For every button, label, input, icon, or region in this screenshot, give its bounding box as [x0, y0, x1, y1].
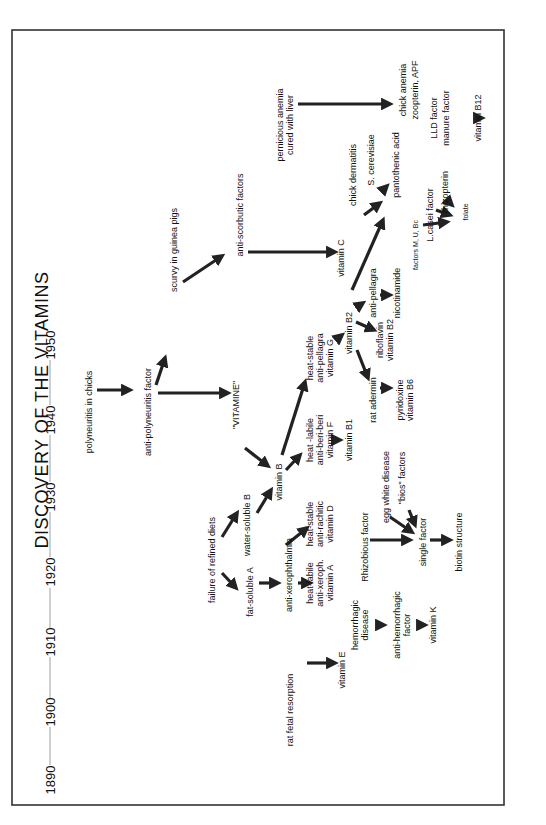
arrow-icon [156, 358, 165, 385]
node-factors-m-u-bc: factors M, U, Bc [412, 220, 419, 270]
node-vitamin-c: vitamin C [336, 239, 346, 277]
arrow-icon [357, 350, 368, 378]
node-vitamin-k: vitamin K [428, 606, 438, 643]
node-vitamin-b: vitamin B [274, 463, 284, 500]
arrow-icon [245, 448, 268, 466]
arrow-icon [222, 513, 237, 537]
labels: polyneuritis in chicks anti-polyneuritis… [84, 60, 483, 746]
arrow-icon [409, 510, 415, 525]
node-vitamin-f: heat -labileanti-beri-berivitamin F [305, 415, 335, 466]
node-polyneuritis-in-chicks: polyneuritis in chicks [84, 370, 94, 453]
arrow-icon [222, 573, 236, 588]
arrow-icon [183, 256, 222, 282]
arrow-icon [257, 490, 271, 513]
node-bios-factors: "bios" factors [397, 451, 407, 504]
arrow-icon [390, 517, 412, 532]
node-folate: folate [462, 203, 469, 220]
node-fat-soluble-a: fat-soluble A [245, 567, 255, 617]
node-egg-white-disease: egg white disease [381, 451, 391, 523]
node-vitamin-b2: vitamin B2 [344, 312, 354, 354]
arrow-icon [286, 455, 300, 470]
node-riboflavin-vitamin-b2: riboflavinvitamin B2 [375, 319, 395, 361]
node-scurvy-in-guinea-pigs: scurvy in guinea pigs [169, 207, 179, 292]
arrow-icon [282, 382, 305, 455]
arrow-icon [357, 303, 363, 307]
node-anti-polyneuritis-factor: anti-polyneuritis factor [143, 368, 153, 456]
node-failure-of-refined-diets: failure of refined diets [207, 516, 217, 603]
node-vitamin-g: heat-stableanti-pellagravitamin G [305, 333, 335, 383]
year-1910: 1910 [43, 628, 58, 657]
node-anti-hemorrhagic-factor: anti-hemorrhagicfactor [392, 591, 412, 659]
node-vitamin-e: vitamin E [337, 651, 347, 688]
node-pyridoxine-vitamin-b6: pyridoxinevitamin B6 [395, 379, 415, 421]
node-biotin-structure: biotin structure [454, 512, 464, 571]
node-pantothenic-acid: pantothenic acid [391, 132, 401, 198]
year-1950: 1950 [43, 331, 58, 360]
node-vitamin-b1: vitamin B1 [344, 419, 354, 461]
year-1920: 1920 [43, 558, 58, 587]
arrow-icon [356, 322, 374, 330]
node-rhizopterin: rhizopterin [440, 171, 450, 213]
node-chick-anemia: chick anemiazoopterin, APF [398, 60, 420, 120]
vitamin-discovery-diagram: DISCOVERY OF THE VITAMINS 1890 1900 1910… [0, 0, 546, 825]
node-s-cerevisiae: S. cerevisiae [366, 134, 376, 186]
node-vitamin-a: heat-labileanti-xeroph.vitamin A [305, 559, 335, 607]
node-chick-dermatitis: chick dermatitis [348, 143, 358, 206]
node-vitamin-d: heat-stableanti-rachiticvitamin D [305, 500, 335, 547]
year-1940: 1940 [43, 406, 58, 435]
arrow-icon [364, 203, 380, 215]
node-rat-fetal-resorption: rat fetal resorption [285, 674, 295, 747]
node-lcasei-factor: L.casei factor [425, 188, 435, 242]
node-water-soluble-b: water-soluble B [242, 494, 252, 557]
year-1890: 1890 [43, 766, 58, 795]
node-pernicious-anemia: pernicious anemiacured with liver [275, 88, 295, 161]
year-1900: 1900 [43, 698, 58, 727]
node-rhizobious-factor: Rhizobious factor [360, 512, 370, 582]
node-anti-pellagra: anti-pellagra [368, 268, 378, 318]
node-lld-manure-factor: LLD factormanure factor [429, 90, 451, 146]
node-rat-adermin: rat adermin [368, 377, 378, 423]
node-hemorrhagic-disease: hemorrhagicdisease [350, 599, 370, 650]
arrow-icon [336, 335, 342, 340]
node-nicotinamide: nicotinamide [392, 268, 402, 319]
node-vitamin-b12: vitamin B12 [473, 94, 483, 141]
arrow-icon [383, 186, 387, 190]
node-anti-xerophthalmia: anti-xerophthalmia [284, 538, 294, 612]
node-single-factor: single factor [418, 518, 428, 567]
year-1930: 1930 [43, 483, 58, 512]
node-anti-scorbutic-factors: anti-scorbutic factors [235, 173, 245, 257]
node-vitamine: "VITAMINE" [231, 381, 241, 429]
